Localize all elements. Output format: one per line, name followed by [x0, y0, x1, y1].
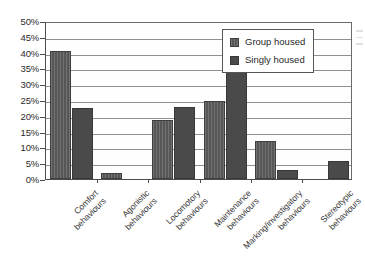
bar-group-housed — [50, 51, 71, 179]
legend-item: Singly housed — [230, 53, 305, 67]
category-group — [97, 23, 148, 179]
y-axis-tick-label: 45% — [5, 33, 39, 43]
chart-legend: Group housedSingly housed — [222, 29, 314, 73]
bar-singly-housed — [72, 108, 93, 179]
legend-item: Group housed — [230, 35, 305, 49]
scan-artifact-line — [356, 37, 363, 39]
y-axis-tick-label: 50% — [5, 17, 39, 27]
bar-group-housed — [152, 120, 173, 179]
x-axis-tick-mark — [251, 179, 252, 183]
y-axis-tick-label: 35% — [5, 64, 39, 74]
bar-singly-housed — [174, 107, 195, 179]
scan-artifact-line — [356, 30, 363, 32]
y-axis-tick-label: 20% — [5, 112, 39, 122]
category-group — [46, 23, 97, 179]
bar-group-housed — [204, 101, 225, 179]
legend-swatch-icon — [230, 56, 239, 65]
x-axis-tick-mark — [200, 179, 201, 183]
legend-label: Singly housed — [245, 55, 305, 65]
category-group — [148, 23, 199, 179]
legend-swatch-icon — [230, 38, 239, 47]
bar-group-housed — [255, 141, 276, 179]
y-axis-tick-label: 10% — [5, 143, 39, 153]
bar-group-housed — [101, 173, 122, 179]
x-axis-tick-mark — [97, 179, 98, 183]
y-axis-tick-mark — [40, 180, 45, 181]
x-axis-tick-mark — [148, 179, 149, 183]
legend-label: Group housed — [245, 37, 305, 47]
y-axis-tick-label: 40% — [5, 49, 39, 59]
scan-artifact-line — [356, 43, 363, 45]
bar-singly-housed — [277, 170, 298, 179]
y-axis-tick-label: 5% — [5, 159, 39, 169]
y-axis-tick-label: 0% — [5, 175, 39, 185]
bar-singly-housed — [328, 161, 349, 179]
y-axis-tick-label: 30% — [5, 80, 39, 90]
y-axis-tick-label: 25% — [5, 96, 39, 106]
y-axis-tick-label: 15% — [5, 128, 39, 138]
bar-chart: 50%45%40%35%30%25%20%15%10%5%0% Comfortb… — [0, 0, 365, 268]
x-axis-tick-mark — [302, 179, 303, 183]
scan-artifact — [356, 30, 365, 50]
